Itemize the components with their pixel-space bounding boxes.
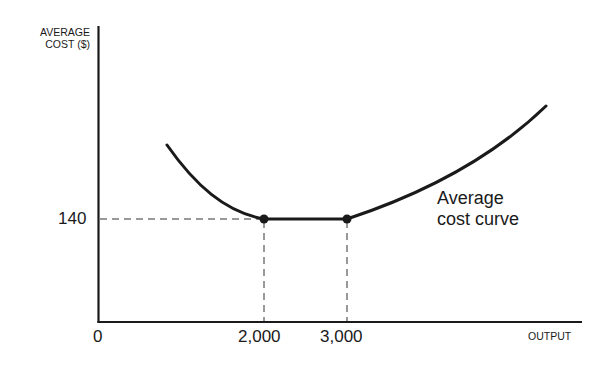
curve-annotation: Average cost curve (437, 188, 519, 230)
y-axis-label-line2: COST ($) (30, 38, 90, 50)
y-axis-label: AVERAGE COST ($) (30, 26, 90, 50)
x-axis-label: OUTPUT (528, 330, 571, 342)
curve-annotation-line1: Average (437, 188, 519, 209)
x-tick-2000: 2,000 (238, 327, 281, 347)
chart-canvas (0, 0, 607, 365)
y-tick-140: 140 (58, 209, 86, 229)
curve-annotation-line2: cost curve (437, 209, 519, 230)
point-3000-140 (343, 215, 352, 224)
x-tick-3000: 3,000 (320, 327, 363, 347)
point-2000-140 (260, 215, 269, 224)
x-tick-origin: 0 (93, 327, 102, 347)
y-axis-label-line1: AVERAGE (30, 26, 90, 38)
